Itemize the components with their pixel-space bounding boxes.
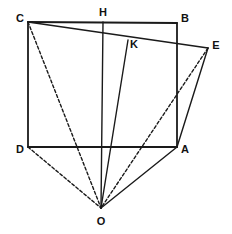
vertex-label-c: C [16, 12, 24, 24]
vertex-label-k: K [130, 38, 138, 50]
vertex-label-o: O [97, 215, 106, 227]
vertex-label-e: E [212, 39, 219, 51]
vertex-label-a: A [181, 143, 189, 155]
figure-container: CHBEKDAO [0, 0, 232, 234]
vertex-label-h: H [99, 6, 107, 18]
geometry-diagram: CHBEKDAO [0, 0, 232, 234]
vertex-label-b: B [181, 12, 189, 24]
vertex-label-d: D [16, 143, 24, 155]
